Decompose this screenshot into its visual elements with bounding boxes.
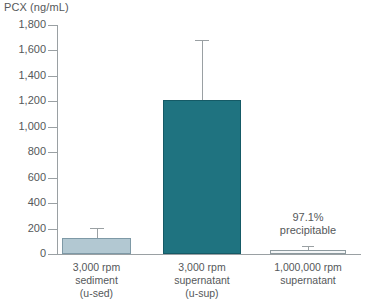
y-axis-title: PCX (ng/mL) [4,1,69,13]
bar-3 [270,250,346,254]
annotation-line: precipitable [256,224,360,237]
y-tick-label: 1,200 [0,94,46,106]
bar-chart: PCX (ng/mL) 1,8001,6001,4001,2001,000800… [0,0,366,302]
y-tick-mark [48,101,58,102]
annotation-line: 97.1% [256,211,360,224]
y-tick-mark [48,178,58,179]
category-label-line: (u-sed) [40,287,153,300]
y-tick-label: 1,600 [0,43,46,55]
category-label-line: 3,000 rpm [40,261,153,274]
y-tick-mark [48,203,58,204]
y-tick-label: 1,800 [0,18,46,30]
error-bar-cap-2 [195,40,209,41]
y-tick-label: 1,400 [0,69,46,81]
precipitable-annotation: 97.1%precipitable [256,211,360,237]
y-tick-mark [48,76,58,77]
category-label-line: (u-sup) [141,287,263,300]
error-bar-line-2 [202,40,203,100]
y-tick-mark [48,50,58,51]
x-axis-line [48,254,361,255]
error-bar-cap-1 [90,228,104,229]
category-label-line: 3,000 rpm [141,261,263,274]
y-tick-label: 0 [0,247,46,259]
bar-2 [163,100,241,254]
category-label-line: supernatant [141,274,263,287]
error-bar-line-1 [97,228,98,238]
y-tick-label: 600 [0,171,46,183]
y-tick-label: 400 [0,196,46,208]
category-label-2: 3,000 rpmsupernatant(u-sup) [141,261,263,300]
y-tick-mark [48,254,58,255]
category-label-line: 1,000,000 rpm [248,261,366,274]
y-tick-mark [48,127,58,128]
category-label-1: 3,000 rpmsediment(u-sed) [40,261,153,300]
error-bar-cap-3 [302,246,314,247]
y-tick-mark [48,152,58,153]
category-label-3: 1,000,000 rpmsupernatant [248,261,366,287]
bar-1 [62,238,131,254]
y-tick-mark [48,25,58,26]
y-tick-label: 200 [0,222,46,234]
category-label-line: supernatant [248,274,366,287]
category-label-line: sediment [40,274,153,287]
y-axis-line [57,25,58,255]
y-tick-mark [48,229,58,230]
y-tick-label: 1,000 [0,120,46,132]
y-tick-label: 800 [0,145,46,157]
